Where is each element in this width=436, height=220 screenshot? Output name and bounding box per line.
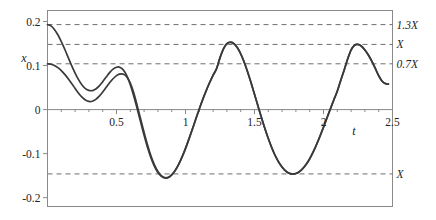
plot-canvas: 0.511.522.5 0.20.10-0.1-0.2 1.3XX0.7XX x… — [0, 0, 436, 220]
chart-figure: 0.511.522.5 0.20.10-0.1-0.2 1.3XX0.7XX x… — [0, 0, 436, 220]
y-tick-label: -0.2 — [22, 192, 40, 204]
reference-label-upper-X: X — [396, 38, 405, 50]
y-tick-label: 0.1 — [26, 60, 41, 72]
x-tick-label: 0.5 — [109, 116, 124, 128]
y-tick-label: 0.2 — [26, 16, 41, 28]
reference-label-upper-0-7X: 0.7X — [397, 58, 419, 70]
y-axis-label: x — [20, 51, 27, 65]
reference-label-lower-X: X — [396, 168, 405, 180]
x-tick-label: 1 — [183, 116, 189, 128]
x-tick-label: 1.5 — [247, 116, 262, 128]
x-tick-label: 2 — [321, 116, 327, 128]
reference-label-upper-1-3X: 1.3X — [397, 19, 419, 31]
y-tick-label: -0.1 — [22, 148, 40, 160]
x-tick-label: 2.5 — [385, 116, 400, 128]
y-tick-label: 0 — [35, 104, 41, 116]
